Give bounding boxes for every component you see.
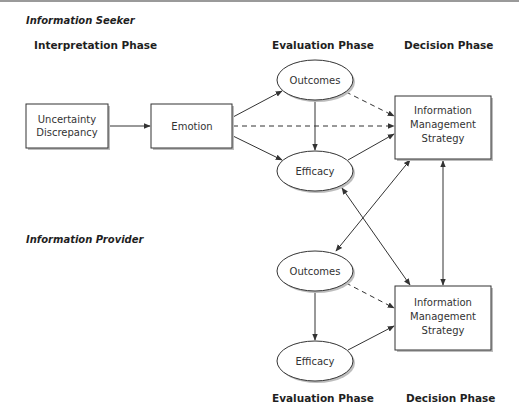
node-seeker-efficacy: Efficacy (277, 151, 355, 193)
provider-strategy-line3: Strategy (422, 325, 465, 336)
uncertainty-label-line2: Discrepancy (36, 127, 98, 138)
provider-strategy-line1: Information (414, 297, 472, 308)
diagram-canvas: Information Seeker Interpretation Phase … (0, 0, 519, 417)
phase-label-interpretation: Interpretation Phase (34, 39, 157, 51)
node-provider-outcomes: Outcomes (277, 251, 355, 293)
node-provider-efficacy: Efficacy (277, 341, 355, 383)
provider-strategy-line2: Management (410, 311, 476, 322)
node-seeker-outcomes: Outcomes (277, 60, 355, 102)
seeker-strategy-line3: Strategy (422, 133, 465, 144)
seeker-strategy-line1: Information (414, 105, 472, 116)
provider-efficacy-label: Efficacy (295, 356, 334, 367)
phase-label-evaluation-bottom: Evaluation Phase (272, 392, 374, 404)
edge-efficacy-strategy-seeker (348, 134, 394, 160)
node-seeker-strategy: Information Management Strategy (395, 96, 493, 161)
edge-outcomes-strategy-seeker (346, 92, 394, 116)
emotion-label: Emotion (171, 121, 212, 132)
edge-efficacy-strategy-provider (348, 326, 394, 350)
node-provider-strategy: Information Management Strategy (395, 286, 493, 352)
edge-emotion-efficacy (233, 136, 282, 160)
phase-label-decision-bottom: Decision Phase (406, 392, 495, 404)
edge-emotion-outcomes (233, 91, 282, 117)
section-label-seeker: Information Seeker (26, 15, 136, 26)
provider-outcomes-label: Outcomes (290, 266, 341, 277)
seeker-efficacy-label: Efficacy (295, 166, 334, 177)
phase-label-decision-top: Decision Phase (404, 39, 493, 51)
edge-outcomes-strategy-provider (346, 283, 394, 308)
uncertainty-label-line1: Uncertainty (38, 114, 97, 125)
node-uncertainty-discrepancy: Uncertainty Discrepancy (26, 104, 110, 150)
phase-label-evaluation-top: Evaluation Phase (272, 39, 374, 51)
seeker-outcomes-label: Outcomes (290, 75, 341, 86)
section-label-provider: Information Provider (26, 234, 145, 245)
node-emotion: Emotion (151, 104, 234, 150)
seeker-strategy-line2: Management (410, 119, 476, 130)
